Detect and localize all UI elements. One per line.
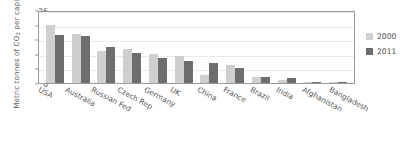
y-axis-title: Metric tonnes of CO2 per capita: [12, 0, 21, 111]
bar: [200, 75, 209, 83]
legend-label: 2011: [377, 47, 396, 56]
bar: [72, 34, 81, 83]
bar: [338, 82, 347, 83]
bar-group: [197, 12, 223, 83]
bar: [81, 36, 90, 83]
x-tick-label: China: [195, 85, 218, 103]
bar: [106, 47, 115, 83]
bar: [312, 82, 321, 83]
bar-group: [248, 12, 274, 83]
x-tick-label: Brazil: [248, 85, 270, 103]
bar: [158, 58, 167, 83]
legend: 20002011: [366, 32, 396, 62]
y-axis-title-suffix: per capita: [12, 0, 21, 32]
bar: [303, 82, 312, 83]
bar-group: [300, 12, 326, 83]
legend-label: 2000: [377, 32, 396, 41]
bar: [278, 80, 287, 83]
bar-group: [42, 12, 68, 83]
bar: [55, 35, 64, 83]
bar: [329, 82, 338, 83]
bar-group: [145, 12, 171, 83]
bar-group: [68, 12, 94, 83]
bar-group: [325, 12, 351, 83]
bar: [97, 51, 106, 83]
bar-groups: [39, 12, 354, 83]
bar: [209, 63, 218, 83]
bar: [261, 77, 270, 83]
bar-group: [119, 12, 145, 83]
legend-swatch: [366, 48, 373, 55]
bar: [287, 78, 296, 83]
x-axis-labels: USAAustraliaRussian FedCzech RepGermanyU…: [38, 85, 355, 145]
bar-group: [171, 12, 197, 83]
bar: [235, 68, 244, 83]
bar-group: [274, 12, 300, 83]
bar-group: [222, 12, 248, 83]
legend-swatch: [366, 33, 373, 40]
bar: [46, 25, 55, 83]
bar-group: [94, 12, 120, 83]
bar: [149, 54, 158, 83]
bar: [132, 53, 141, 83]
bar: [184, 61, 193, 83]
legend-item: 2011: [366, 47, 396, 56]
y-axis-title-subscript: 2: [15, 32, 21, 36]
bar: [175, 56, 184, 83]
bar: [123, 49, 132, 83]
bar: [252, 77, 261, 83]
plot-area: [38, 11, 355, 84]
bar-chart: Metric tonnes of CO2 per capita 05101520…: [0, 0, 407, 152]
x-tick-label: UK: [169, 85, 182, 98]
legend-item: 2000: [366, 32, 396, 41]
y-axis-title-prefix: Metric tonnes of CO: [12, 36, 21, 109]
x-tick-label: USA: [37, 85, 55, 100]
bar: [226, 65, 235, 83]
x-tick-label: France: [222, 85, 248, 104]
x-tick-label: India: [275, 85, 295, 101]
